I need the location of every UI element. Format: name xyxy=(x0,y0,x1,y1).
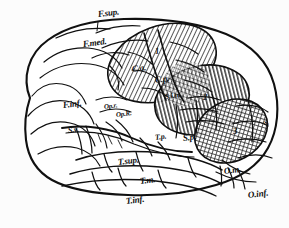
label-s-p: S.p. xyxy=(182,132,196,143)
label-t-m: T.m. xyxy=(139,175,155,186)
label-c-a: C.a. xyxy=(131,63,146,74)
zone-2-number: 2 xyxy=(202,91,208,101)
label-s-i-m: S.i.m. xyxy=(165,91,182,100)
zone-3-number: 3 xyxy=(232,125,238,135)
label-s-right: S. xyxy=(264,119,270,126)
label-c-p: C.p. xyxy=(154,74,169,85)
label-s-v: S.v. xyxy=(68,126,80,135)
label-t-p: T.p. xyxy=(155,133,167,142)
brain-diagram-figure: F.sup. F.med. F.inf. Op.r. Op.R. S.v. C.… xyxy=(0,0,289,228)
brain-illustration xyxy=(0,0,289,228)
